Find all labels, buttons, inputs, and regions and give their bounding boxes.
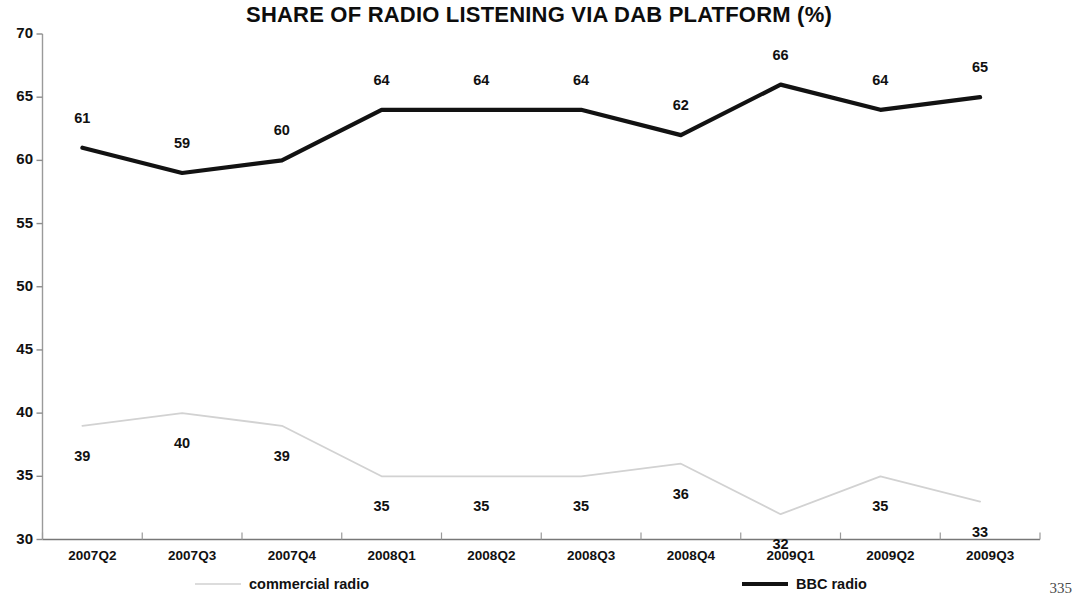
y-axis-tick-label: 30	[0, 530, 33, 547]
data-label: 33	[950, 524, 1010, 540]
legend-item-commercial-radio[interactable]: commercial radio	[195, 576, 369, 592]
data-label: 39	[252, 448, 312, 464]
data-label: 59	[152, 135, 212, 151]
data-label: 40	[152, 435, 212, 451]
legend-line-bbc-icon	[742, 582, 788, 586]
legend-line-commercial-icon	[195, 583, 241, 585]
x-axis-category-label: 2007Q4	[242, 548, 342, 563]
data-label: 64	[551, 72, 611, 88]
series-line-commercial-radio	[82, 413, 980, 514]
x-axis-category-label: 2008Q4	[641, 548, 741, 563]
x-axis-category-label: 2007Q2	[43, 548, 143, 563]
page-number: 335	[1050, 580, 1073, 597]
data-label: 62	[651, 97, 711, 113]
data-label: 65	[950, 59, 1010, 75]
x-axis-category-label: 2008Q1	[342, 548, 442, 563]
x-axis-category-label: 2008Q3	[541, 548, 641, 563]
y-axis-tick-label: 40	[0, 403, 33, 420]
chart-legend: commercial radio BBC radio	[0, 572, 1078, 602]
data-label: 39	[52, 448, 112, 464]
series-line-BBC-radio	[82, 85, 980, 173]
x-axis-category-label: 2009Q2	[841, 548, 941, 563]
y-axis-tick-label: 70	[0, 24, 33, 41]
x-axis-ticks	[43, 533, 1041, 540]
data-label: 64	[352, 72, 412, 88]
y-axis-ticks	[37, 34, 43, 540]
series-lines	[82, 85, 980, 515]
data-label: 32	[751, 536, 811, 552]
y-axis-tick-label: 35	[0, 466, 33, 483]
data-label: 35	[352, 498, 412, 514]
legend-label-commercial-radio: commercial radio	[249, 576, 369, 592]
x-axis-category-label: 2008Q2	[442, 548, 542, 563]
chart-page: SHARE OF RADIO LISTENING VIA DAB PLATFOR…	[0, 0, 1078, 605]
y-axis-tick-label: 65	[0, 87, 33, 104]
y-axis-tick-label: 60	[0, 150, 33, 167]
legend-label-bbc-radio: BBC radio	[796, 576, 867, 592]
data-label: 35	[850, 498, 910, 514]
chart-plot-area	[0, 0, 1078, 605]
data-label: 64	[451, 72, 511, 88]
data-label: 66	[751, 47, 811, 63]
y-axis-tick-label: 55	[0, 214, 33, 231]
data-label: 61	[52, 110, 112, 126]
data-label: 35	[551, 498, 611, 514]
data-label: 36	[651, 486, 711, 502]
data-label: 35	[451, 498, 511, 514]
legend-item-bbc-radio[interactable]: BBC radio	[742, 576, 867, 592]
x-axis-category-label: 2007Q3	[142, 548, 242, 563]
y-axis-tick-label: 50	[0, 277, 33, 294]
x-axis-category-label: 2009Q3	[940, 548, 1040, 563]
y-axis-tick-label: 45	[0, 340, 33, 357]
data-label: 60	[252, 122, 312, 138]
data-label: 64	[850, 72, 910, 88]
